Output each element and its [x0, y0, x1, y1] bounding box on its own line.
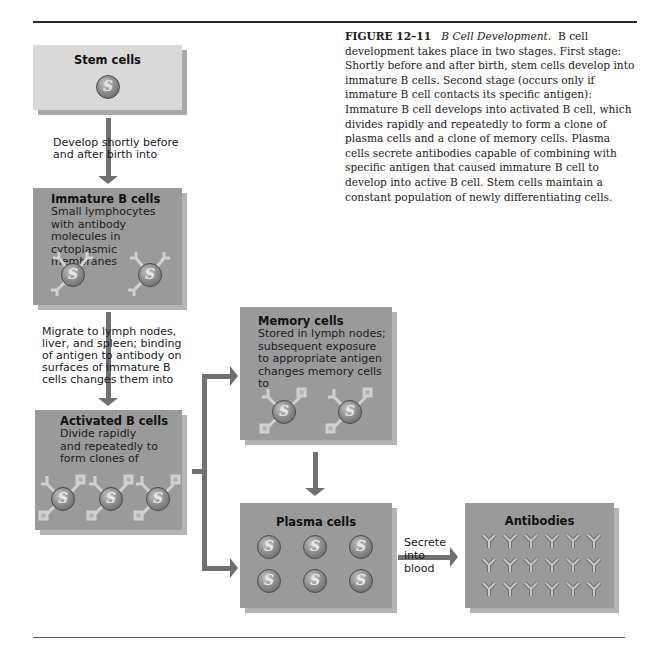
- arrow-down-icon: [98, 176, 118, 184]
- stem-cell-icon: [96, 75, 120, 99]
- branch-to-memory: [202, 374, 230, 379]
- memory-cells-text: Stored in lymph nodes; subsequent exposu…: [258, 328, 390, 391]
- cell-nucleus-icon: [99, 487, 123, 511]
- antibody-y-icon: [483, 535, 600, 596]
- plasma-cells-title: Plasma cells: [240, 516, 392, 529]
- box-face: Immature B cells Small lymphocytes with …: [33, 188, 182, 305]
- cell-nucleus-icon: [61, 263, 85, 287]
- plasma-to-antibodies-label: Secrete into blood: [404, 536, 454, 575]
- b-cell-with-antibody-icon: [258, 387, 308, 435]
- immature-to-activated-label: Migrate to lymph nodes, liver, and splee…: [42, 326, 192, 386]
- box-face: Activated B cells Divide rapidly and rep…: [35, 410, 182, 530]
- b-cell-with-antibody-icon: [37, 474, 87, 522]
- top-rule: [33, 21, 637, 23]
- b-cell-with-antibody-icon: [124, 250, 174, 298]
- cell-nucleus-icon: [338, 400, 362, 424]
- b-cell-with-antibody-icon: [132, 474, 182, 522]
- plasma-cells-box: Plasma cells: [240, 503, 392, 608]
- figure-title: B Cell Development.: [441, 30, 551, 42]
- plasma-cell-icon: [349, 569, 373, 593]
- cell-nucleus-icon: [146, 487, 170, 511]
- branch-vertical: [202, 374, 207, 570]
- plasma-cell-icon: [303, 569, 327, 593]
- caption-body: B cell development takes place in two st…: [345, 30, 634, 203]
- cell-nucleus-icon: [138, 263, 162, 287]
- plasma-cell-icon: [349, 535, 373, 559]
- figure-caption: FIGURE 12–11 B Cell Development. B cell …: [345, 29, 637, 204]
- stem-to-immature-label: Develop shortly before and after birth i…: [53, 137, 183, 161]
- box-face: Antibodies: [465, 503, 614, 608]
- arrow-right-icon: [230, 366, 238, 386]
- antibodies-box: Antibodies: [465, 503, 614, 608]
- plasma-cell-icon: [257, 569, 281, 593]
- b-cell-with-antibody-icon: [85, 474, 135, 522]
- cell-nucleus-icon: [272, 400, 296, 424]
- activated-b-cells-text: Divide rapidly and repeatedly to form cl…: [60, 428, 160, 466]
- stem-cells-title: Stem cells: [33, 54, 182, 67]
- figure-number: FIGURE 12–11: [345, 30, 431, 42]
- plasma-cell-icon: [303, 535, 327, 559]
- arrow-shaft: [313, 452, 318, 488]
- plasma-cell-icon: [257, 535, 281, 559]
- immature-b-cells-box: Immature B cells Small lymphocytes with …: [33, 188, 182, 305]
- antibodies-title: Antibodies: [465, 515, 614, 528]
- memory-cells-box: Memory cells Stored in lymph nodes; subs…: [240, 307, 392, 440]
- box-face: Plasma cells: [240, 503, 392, 608]
- arrow-down-icon: [305, 488, 325, 496]
- box-face: Stem cells: [33, 45, 182, 110]
- arrow-down-icon: [98, 398, 118, 406]
- b-cell-with-antibody-icon: [47, 250, 97, 298]
- cell-nucleus-icon: [51, 487, 75, 511]
- box-face: Memory cells Stored in lymph nodes; subs…: [240, 307, 392, 440]
- antibody-grid: [481, 533, 601, 601]
- arrow-right-icon: [230, 558, 238, 578]
- activated-b-cells-box: Activated B cells Divide rapidly and rep…: [35, 410, 182, 530]
- branch-to-plasma: [202, 566, 230, 571]
- stem-cells-box: Stem cells: [33, 45, 182, 110]
- b-cell-with-antibody-icon: [324, 387, 374, 435]
- bottom-rule: [33, 637, 625, 638]
